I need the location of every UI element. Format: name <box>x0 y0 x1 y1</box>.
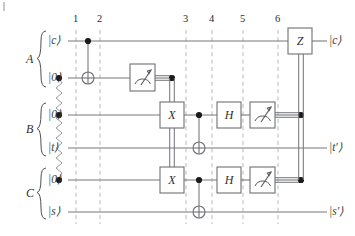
group-braces <box>37 31 46 219</box>
input-label-b0: |0⟩ <box>48 109 61 121</box>
quantum-wires <box>68 41 327 212</box>
cnot-a-control-dot <box>85 38 91 44</box>
output-label-a0: |c⟩ <box>329 35 341 47</box>
output-label-c1: |s′⟩ <box>329 206 343 218</box>
input-label-a0: |c⟩ <box>48 35 60 47</box>
column-label-4: 4 <box>209 14 214 25</box>
group-label-a: A <box>26 53 33 65</box>
input-label-c0: |0⟩ <box>48 174 61 186</box>
classical-z-bus <box>275 53 304 183</box>
cnot-c <box>193 177 205 218</box>
meter-b0 <box>250 102 275 128</box>
cnot-a <box>82 38 94 84</box>
meter-a1-box <box>130 64 155 91</box>
meter-b0-box <box>250 102 275 128</box>
column-label-5: 5 <box>240 14 245 25</box>
input-label-b1: |t⟩ <box>48 142 58 154</box>
column-label-1: 1 <box>73 14 78 25</box>
group-label-b: B <box>26 123 33 135</box>
brace-group-a <box>37 31 46 87</box>
column-label-3: 3 <box>183 14 188 25</box>
x-gate-c-label: X <box>160 174 184 186</box>
cnot-b-control-dot <box>196 112 202 118</box>
cnot-b <box>193 112 205 154</box>
column-label-2: 2 <box>97 14 102 25</box>
quantum-circuit-figure: 1 2 3 4 5 6 A B C |c⟩ |0⟩ |0⟩ |t⟩ |0⟩ |s… <box>0 0 355 236</box>
group-label-c: C <box>26 187 34 199</box>
meter-a1 <box>130 64 155 91</box>
brace-group-b <box>37 103 46 156</box>
meter-c0-box <box>250 167 275 193</box>
meter-c0 <box>250 167 275 193</box>
h-gate-c-label: H <box>217 174 241 186</box>
input-label-a1: |0⟩ <box>48 72 61 84</box>
h-gate-b-label: H <box>217 109 241 121</box>
brace-group-c <box>37 168 46 219</box>
x-gate-b-label: X <box>160 109 184 121</box>
entanglement-squiggle <box>56 78 62 178</box>
input-label-c1: |s⟩ <box>48 206 60 218</box>
cnot-c-control-dot <box>196 177 202 183</box>
output-label-b1: |t′⟩ <box>329 142 342 154</box>
z-gate-a-label: Z <box>288 35 312 47</box>
column-label-6: 6 <box>275 14 280 25</box>
